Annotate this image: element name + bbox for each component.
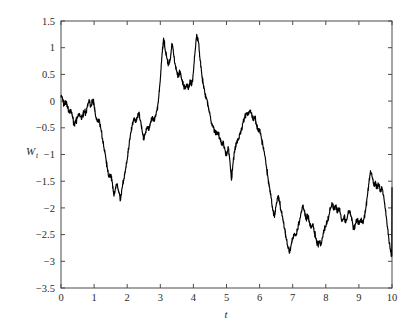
y-tick-label: −1 <box>44 149 55 160</box>
x-tick-label: 0 <box>58 292 63 303</box>
y-tick-label: −0.5 <box>36 122 55 133</box>
x-tick-label: 3 <box>158 292 163 303</box>
y-tick-label: 0.5 <box>42 69 55 80</box>
x-tick-label: 2 <box>125 292 130 303</box>
y-tick-label: −3.5 <box>36 283 55 294</box>
y-tick-label: 1 <box>50 42 55 53</box>
x-tick-label: 9 <box>356 292 361 303</box>
figure-container: 012345678910 1.510.50−0.5−1−1.5−2−2.5−3−… <box>0 0 413 329</box>
y-tick-label: −2 <box>44 203 55 214</box>
x-tick-label: 8 <box>323 292 328 303</box>
x-tick-label: 7 <box>290 292 295 303</box>
y-tick-label: 0 <box>50 96 55 107</box>
brownian-motion-chart: 012345678910 1.510.50−0.5−1−1.5−2−2.5−3−… <box>0 0 413 329</box>
y-tick-label: −2.5 <box>36 229 55 240</box>
x-tick-label: 1 <box>91 292 96 303</box>
x-tick-label: 4 <box>191 292 197 303</box>
y-tick-label: −1.5 <box>36 176 55 187</box>
x-tick-label: 6 <box>257 292 262 303</box>
chart-background <box>0 0 413 329</box>
y-axis-title: W <box>26 145 36 157</box>
y-tick-label: −3 <box>44 256 55 267</box>
x-tick-label: 10 <box>387 292 398 303</box>
y-tick-label: 1.5 <box>42 16 55 27</box>
x-tick-label: 5 <box>224 292 229 303</box>
